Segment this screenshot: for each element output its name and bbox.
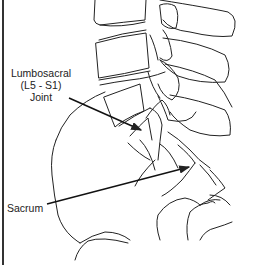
lumbosacral-label-line3: Joint <box>9 91 73 103</box>
sacrum-label: Sacrum <box>7 202 43 214</box>
sacrum-pointer <box>47 167 189 204</box>
lumbosacral-joint-label: Lumbosacral (L5 - S1) Joint <box>9 67 73 103</box>
spine-illustration <box>0 0 255 265</box>
lumbosacral-label-line1: Lumbosacral <box>9 67 73 79</box>
l5-vertebra <box>96 33 149 78</box>
l4-vertebra <box>94 0 146 25</box>
lumbosacral-pointer <box>69 98 141 130</box>
lumbosacral-label-line2: (L5 - S1) <box>9 79 73 91</box>
anatomy-diagram: Lumbosacral (L5 - S1) Joint Sacrum <box>0 0 255 265</box>
s1-segment <box>104 84 144 127</box>
